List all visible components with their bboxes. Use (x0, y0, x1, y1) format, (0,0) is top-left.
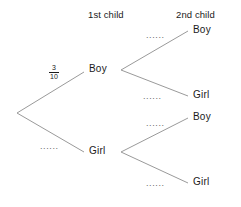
fraction-numerator: 3 (49, 64, 59, 71)
node-first-child-girl: Girl (89, 145, 105, 156)
probability-blank-boy-to-boy: ...... (146, 30, 165, 40)
probability-blank-girl-to-girl: ...... (146, 178, 165, 188)
node-second-child-girl-girl: Girl (193, 176, 209, 187)
node-second-child-girl-boy: Boy (193, 111, 211, 122)
node-second-child-boy-boy: Boy (193, 24, 211, 35)
column-header-first-child: 1st child (88, 9, 124, 20)
node-second-child-boy-girl: Girl (193, 89, 209, 100)
probability-label-root-to-boy: 3 10 (49, 64, 59, 81)
probability-blank-boy-to-girl: ...... (143, 91, 162, 101)
column-header-second-child: 2nd child (176, 9, 215, 20)
probability-blank-girl-to-boy: ...... (146, 118, 165, 128)
probability-tree-diagram: 1st child 2nd child Boy Girl Boy Girl Bo… (0, 0, 241, 207)
node-first-child-boy: Boy (89, 63, 107, 74)
probability-blank-root-to-girl: ...... (40, 141, 59, 151)
fraction-denominator: 10 (49, 73, 59, 80)
